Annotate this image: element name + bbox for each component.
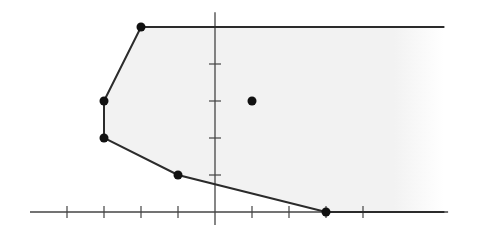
feasible-region-fill — [104, 27, 444, 212]
polyhedron-plot — [0, 0, 477, 237]
vertex-point — [100, 97, 109, 106]
vertex-point — [174, 171, 183, 180]
interior-point — [248, 97, 257, 106]
diagram-canvas: polyhedron-feasible-region — [0, 0, 477, 237]
vertex-point — [137, 23, 146, 32]
vertex-point — [100, 134, 109, 143]
vertex-point — [322, 208, 331, 217]
